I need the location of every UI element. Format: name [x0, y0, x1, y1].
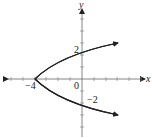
- y-axis: [80, 9, 84, 137]
- x-axis-label: x: [145, 73, 151, 84]
- label-two: 2: [74, 44, 79, 55]
- parabola-graph: y x −4 0 2 −2: [0, 0, 152, 138]
- y-axis-label: y: [78, 0, 84, 10]
- label-origin: 0: [74, 80, 79, 91]
- label-neg4: −4: [25, 80, 36, 91]
- label-neg2: −2: [87, 94, 98, 105]
